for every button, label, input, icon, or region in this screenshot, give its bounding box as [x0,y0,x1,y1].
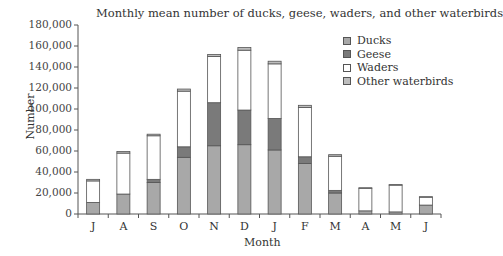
legend: Ducks Geese Waders Other waterbirds [343,34,453,88]
bar-segment [177,89,190,91]
other-waterbirds-swatch-icon [343,77,351,85]
bar-segment [329,156,342,190]
bar-segment [298,164,311,214]
bar-segment [329,155,342,157]
bar-segment [177,147,190,158]
bar-segment [359,188,372,189]
bar-segment [117,194,130,214]
bar-segment [177,91,190,147]
legend-item-waders: Waders [343,61,453,75]
legend-label: Ducks [357,34,391,48]
legend-label: Geese [357,48,391,62]
bar-segment [419,197,432,205]
bar-segment [238,110,251,145]
bar-segment [268,61,281,64]
legend-item-ducks: Ducks [343,34,453,48]
bar-segment [419,205,432,214]
bar-segment [147,183,160,215]
bar-segment [208,103,221,146]
bar-segment [117,152,130,154]
bar-segment [419,197,432,198]
bar-segment [87,181,100,203]
geese-swatch-icon [343,50,351,58]
bar-segment [238,50,251,110]
bar-segment [147,136,160,180]
bar-segment [208,57,221,103]
bar-segment [177,157,190,214]
bar-segment [359,211,372,214]
bar-segment [298,105,311,107]
bar-segment [238,145,251,214]
bar-segment [147,134,160,136]
bar-segment [117,153,130,194]
waders-swatch-icon [343,64,351,72]
bar-segment [147,179,160,182]
bar-segment [208,146,221,214]
bar-segment [268,150,281,214]
bar-segment [208,54,221,56]
bar-segment [268,118,281,150]
bar-segment [329,193,342,214]
legend-item-other-waterbirds: Other waterbirds [343,75,453,89]
legend-label: Other waterbirds [357,75,453,89]
bar-segment [268,64,281,119]
bar-segment [298,107,311,156]
bar-segment [87,202,100,214]
bar-segment [238,48,251,51]
bar-segment [359,188,372,211]
bar-segment [389,185,402,212]
legend-item-geese: Geese [343,48,453,62]
bar-segment [389,185,402,186]
bar-segment [298,157,311,164]
ducks-swatch-icon [343,37,351,45]
bar-segment [87,179,100,181]
legend-label: Waders [357,61,398,75]
